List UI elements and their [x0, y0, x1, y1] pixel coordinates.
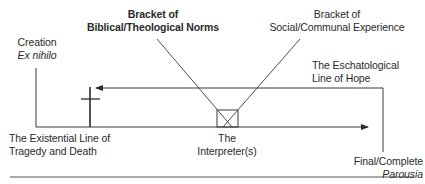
existential-label: The Existential Line of Tragedy and Deat…: [9, 132, 110, 158]
biblical-bracket-label: Bracket of Biblical/Theological Norms: [78, 8, 228, 34]
interpreter-label: The Interpreter(s): [187, 132, 267, 158]
creation-label: Creation Ex nihilo: [14, 36, 60, 62]
social-bracket-line2: Social/Communal Experience: [262, 21, 412, 34]
eschatological-line1: The Eschatological: [312, 59, 399, 72]
eschatological-label: The Eschatological Line of Hope: [312, 59, 399, 85]
biblical-bracket-line: [157, 39, 232, 127]
biblical-bracket-line1: Bracket of: [78, 8, 228, 21]
biblical-bracket-line2: Biblical/Theological Norms: [78, 21, 228, 34]
interpreter-line1: The: [187, 132, 267, 145]
creation-label-line1: Creation: [14, 36, 60, 49]
cross-icon: [81, 87, 100, 127]
interpreter-line2: Interpreter(s): [187, 145, 267, 158]
social-bracket-line: [223, 39, 300, 127]
parousia-label: Final/Complete Parousia: [351, 155, 423, 181]
creation-label-line2: Ex nihilo: [14, 49, 60, 62]
existential-line1: The Existential Line of: [9, 132, 110, 145]
parousia-line2: Parousia: [351, 168, 423, 181]
eschatological-line2: Line of Hope: [312, 72, 399, 85]
social-bracket-line1: Bracket of: [262, 8, 412, 21]
parousia-line1: Final/Complete: [351, 155, 423, 168]
social-bracket-label: Bracket of Social/Communal Experience: [262, 8, 412, 34]
existential-line2: Tragedy and Death: [9, 145, 110, 158]
